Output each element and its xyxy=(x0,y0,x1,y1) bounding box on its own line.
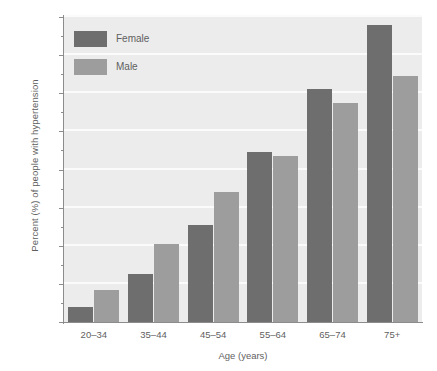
bar-male-3 xyxy=(273,156,298,322)
x-tick-label: 65–74 xyxy=(319,329,345,340)
bar-male-1 xyxy=(154,244,179,322)
legend-swatch-female xyxy=(74,31,107,47)
y-tick-mark-minor xyxy=(61,265,64,266)
y-tick-mark-minor xyxy=(61,189,64,190)
y-tick-mark-minor xyxy=(61,227,64,228)
x-tick-label: 45–54 xyxy=(200,329,226,340)
bar-male-0 xyxy=(94,290,119,322)
y-tick-mark-minor xyxy=(61,36,64,37)
bar-male-4 xyxy=(333,103,358,322)
y-tick-mark xyxy=(59,55,64,56)
x-tick-label: 75+ xyxy=(384,329,400,340)
legend-label-female: Female xyxy=(116,33,149,44)
y-tick-mark xyxy=(59,322,64,323)
bar-female-1 xyxy=(128,274,153,322)
y-tick-mark xyxy=(59,93,64,94)
x-axis-title: Age (years) xyxy=(64,350,422,361)
y-tick-mark xyxy=(59,284,64,285)
y-tick-mark-minor xyxy=(61,150,64,151)
y-axis-title: Percent (%) of people with hypertension xyxy=(29,16,40,316)
gridline xyxy=(64,15,422,17)
y-tick-mark-minor xyxy=(61,303,64,304)
bar-female-3 xyxy=(247,152,272,322)
bar-female-0 xyxy=(68,307,93,322)
y-tick-mark xyxy=(59,17,64,18)
bar-male-5 xyxy=(393,76,418,322)
x-tick-label: 35–44 xyxy=(140,329,166,340)
hypertension-bar-chart: Percent (%) of people with hypertension … xyxy=(0,0,437,371)
legend-swatch-male xyxy=(74,59,107,75)
bar-female-5 xyxy=(367,25,392,322)
y-tick-mark xyxy=(59,170,64,171)
bar-male-2 xyxy=(214,192,239,322)
bar-female-4 xyxy=(307,89,332,322)
x-tick-label: 20–34 xyxy=(81,329,107,340)
y-tick-mark-minor xyxy=(61,74,64,75)
y-tick-mark-minor xyxy=(61,112,64,113)
y-tick-mark xyxy=(59,246,64,247)
legend-label-male: Male xyxy=(116,61,138,72)
x-tick-label: 55–64 xyxy=(260,329,286,340)
y-tick-mark xyxy=(59,208,64,209)
x-axis-line xyxy=(63,322,423,323)
bar-female-2 xyxy=(188,225,213,322)
y-tick-mark xyxy=(59,131,64,132)
